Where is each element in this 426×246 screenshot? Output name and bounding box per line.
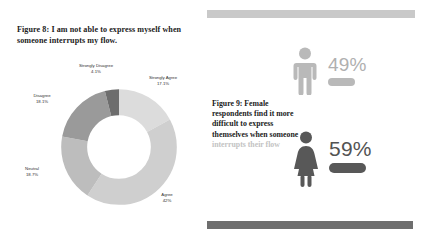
stat-female-bar	[329, 163, 366, 173]
donut-label-agree: Agree 42%	[148, 192, 186, 203]
donut-label-strongly-agree: Strongly Agree 17.1%	[139, 75, 187, 86]
male-person-icon	[290, 47, 320, 95]
donut-label-disagree: Disagree 18.1%	[23, 93, 61, 104]
donut-label-strongly-disagree: Strongly Disagree 4.1%	[70, 63, 122, 74]
stat-row-male: 49%	[290, 47, 367, 95]
figure-8-caption: Figure 8: I am not able to express mysel…	[17, 24, 193, 46]
donut-label-neutral: Neutral 18.7%	[14, 166, 50, 177]
donut-label-neutral-name: Neutral	[25, 166, 39, 171]
donut-label-strongly-agree-value: 17.1%	[139, 81, 187, 87]
female-person-icon	[290, 131, 322, 187]
stat-female-values: 59%	[329, 138, 372, 181]
stat-row-female: 59%	[290, 131, 372, 187]
donut-label-disagree-value: 18.1%	[23, 99, 61, 105]
figure-9-caption-faded: interrupts their flow	[212, 140, 280, 149]
donut-label-agree-value: 42%	[148, 198, 186, 204]
stat-male-bar	[328, 78, 355, 86]
donut-label-strongly-disagree-name: Strongly Disagree	[79, 63, 113, 68]
top-divider-band	[207, 10, 415, 18]
page-canvas: Figure 8: I am not able to express mysel…	[0, 0, 426, 246]
donut-label-neutral-value: 18.7%	[14, 172, 50, 178]
bottom-divider-band	[207, 221, 413, 229]
donut-label-agree-name: Agree	[161, 192, 172, 197]
stat-male-percentage: 49%	[328, 55, 367, 74]
figure-8-donut-chart	[60, 88, 178, 206]
stat-male-values: 49%	[328, 55, 367, 88]
donut-label-strongly-disagree-value: 4.1%	[70, 69, 122, 75]
figure-9-caption: Figure 9: Female respondents find it mor…	[212, 99, 300, 150]
donut-label-disagree-name: Disagree	[33, 93, 50, 98]
figure-9-caption-main: Figure 9: Female respondents find it mor…	[212, 99, 298, 139]
figure-8-panel: Figure 8: I am not able to express mysel…	[0, 0, 205, 246]
donut-label-strongly-agree-name: Strongly Agree	[149, 75, 177, 80]
donut-svg	[60, 88, 178, 206]
stat-female-percentage: 59%	[329, 138, 372, 159]
figure-9-panel: Figure 9: Female respondents find it mor…	[205, 0, 426, 246]
